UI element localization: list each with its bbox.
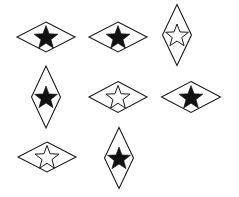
rhombus-horizontal-filled-star: [17, 22, 75, 52]
rhombus-horizontal-filled-star: [89, 22, 147, 52]
rhombus-horizontal-filled-star: [162, 82, 221, 113]
rhombus-vertical-filled-star: [105, 128, 134, 189]
rhombus-vertical-filled-star: [32, 66, 61, 128]
rhombus-horizontal-outline-star: [89, 82, 147, 113]
rhombus-vertical-outline-star: [163, 5, 192, 66]
star-rhombus-diagram: [0, 0, 239, 197]
rhombus-horizontal-outline-star: [18, 142, 76, 172]
